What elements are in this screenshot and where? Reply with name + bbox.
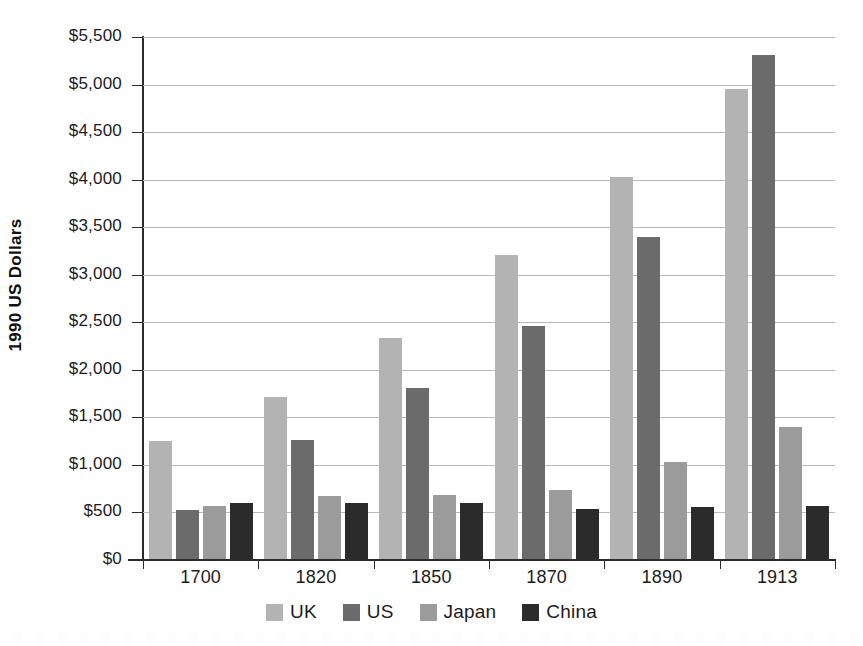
x-axis-line xyxy=(128,559,836,561)
y-tick-label: $5,500 xyxy=(4,26,122,46)
bar-japan-1913 xyxy=(779,427,802,560)
legend-swatch-japan xyxy=(420,604,437,621)
legend-swatch-uk xyxy=(266,604,283,621)
y-tick-label: $1,000 xyxy=(4,454,122,474)
chart-legend: UKUSJapanChina xyxy=(0,601,863,623)
bar-uk-1913 xyxy=(725,89,748,560)
gridline xyxy=(143,85,835,86)
y-tick-label: $1,500 xyxy=(4,406,122,426)
y-tick-label: $5,000 xyxy=(4,74,122,94)
legend-swatch-us xyxy=(343,604,360,621)
scan-artifact xyxy=(0,632,863,644)
legend-label-japan: Japan xyxy=(444,601,497,623)
x-tick-mark xyxy=(835,560,836,569)
legend-item-uk: UK xyxy=(266,601,317,623)
y-tick-label: $500 xyxy=(4,501,122,521)
x-tick-label-1870: 1870 xyxy=(489,567,604,588)
bar-us-1870 xyxy=(522,326,545,560)
bar-japan-1850 xyxy=(433,495,456,560)
y-tick-label: $2,000 xyxy=(4,359,122,379)
legend-item-us: US xyxy=(343,601,394,623)
x-tick-label-1820: 1820 xyxy=(258,567,373,588)
bar-uk-1870 xyxy=(495,255,518,560)
bar-china-1890 xyxy=(691,507,714,560)
y-tick-label: $3,000 xyxy=(4,264,122,284)
y-tick-label: $4,500 xyxy=(4,121,122,141)
bar-china-1913 xyxy=(806,506,829,560)
legend-label-uk: UK xyxy=(290,601,317,623)
plot-area xyxy=(143,37,835,560)
bar-uk-1820 xyxy=(264,397,287,560)
bar-uk-1890 xyxy=(610,177,633,560)
bar-japan-1890 xyxy=(664,462,687,560)
y-tick-label: $2,500 xyxy=(4,311,122,331)
bar-japan-1700 xyxy=(203,506,226,560)
bar-china-1700 xyxy=(230,503,253,560)
legend-item-japan: Japan xyxy=(420,601,497,623)
x-tick-label-1913: 1913 xyxy=(720,567,835,588)
bar-china-1850 xyxy=(460,503,483,560)
bar-uk-1700 xyxy=(149,441,172,560)
bar-china-1870 xyxy=(576,509,599,560)
bar-japan-1820 xyxy=(318,496,341,560)
legend-label-us: US xyxy=(367,601,394,623)
x-tick-label-1700: 1700 xyxy=(143,567,258,588)
bar-us-1820 xyxy=(291,440,314,560)
bar-uk-1850 xyxy=(379,338,402,560)
bar-us-1890 xyxy=(637,237,660,560)
x-tick-label-1850: 1850 xyxy=(374,567,489,588)
bar-japan-1870 xyxy=(549,490,572,560)
gridline xyxy=(143,37,835,38)
y-tick-label: $0 xyxy=(4,549,122,569)
bar-us-1913 xyxy=(752,55,775,560)
bar-us-1850 xyxy=(406,388,429,560)
legend-swatch-china xyxy=(522,604,539,621)
x-tick-label-1890: 1890 xyxy=(604,567,719,588)
bar-chart: 1990 US Dollars $5,500$5,000$4,500$4,000… xyxy=(0,0,863,646)
y-tick-label: $3,500 xyxy=(4,216,122,236)
legend-item-china: China xyxy=(522,601,597,623)
legend-label-china: China xyxy=(546,601,597,623)
bar-china-1820 xyxy=(345,503,368,560)
bar-us-1700 xyxy=(176,510,199,560)
y-tick-label: $4,000 xyxy=(4,169,122,189)
